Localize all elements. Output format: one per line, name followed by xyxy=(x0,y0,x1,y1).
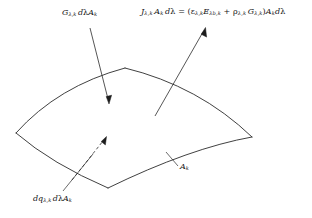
surface-edge-bottom-left xyxy=(16,133,108,188)
figure-canvas: Gλ,k dλAk Jλ,k Ak dλ = (ελ,kEλb,k + ρλ,k… xyxy=(0,0,312,218)
radiosity-arrow xyxy=(155,28,207,117)
irradiation-arrowhead xyxy=(106,95,111,104)
radiosity-equation-label: Jλ,k Ak dλ = (ελ,kEλb,k + ρλ,k Gλ,k)Akdλ xyxy=(141,8,285,16)
diagram-svg xyxy=(0,0,312,218)
irradiation-label: Gλ,k dλAk xyxy=(62,9,97,17)
area-label: Ak xyxy=(180,163,189,171)
curved-surface-patch xyxy=(16,68,252,188)
net-flux-leader xyxy=(63,154,93,191)
radiosity-arrowhead xyxy=(201,28,206,38)
net-flux-label: dqλ,k dλAk xyxy=(33,195,72,203)
area-leader xyxy=(166,152,178,166)
surface-edge-top-right xyxy=(125,68,252,137)
net-flux-arrowhead xyxy=(101,137,106,145)
irradiation-arrow xyxy=(90,28,112,104)
